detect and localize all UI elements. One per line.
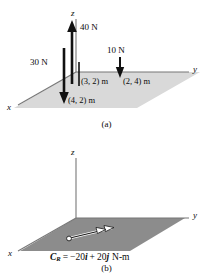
couple-units: N-m [112, 252, 129, 262]
panel-a-force-label-40N: 40 N [80, 23, 98, 32]
couple-unit-vector-i: i [85, 252, 88, 262]
couple-term-j: 20 [97, 252, 107, 262]
panel-b-x-axis-label: x [8, 249, 12, 258]
couple-equals: = [63, 252, 68, 262]
couple-term-i: −20 [70, 252, 85, 262]
couple-unit-vector-j: j [106, 252, 109, 262]
panel-a-x-axis-label: x [7, 103, 11, 112]
figure-root: z y x 40 N 30 N 10 N (3, 2) m (4, 2) m (… [0, 0, 213, 275]
panel-a-caption: (a) [0, 120, 213, 129]
panel-a-z-axis-label: z [71, 9, 75, 18]
figure-panel-b: z y x CR=−20i+20jN-m (b) [0, 138, 213, 275]
panel-a-coord-label-3-2: (3, 2) m [81, 77, 108, 86]
panel-b-y-axis-label: y [193, 211, 197, 220]
panel-b-caption: (b) [0, 264, 213, 273]
panel-a-graphics [0, 0, 213, 138]
figure-panel-a: z y x 40 N 30 N 10 N (3, 2) m (4, 2) m (… [0, 0, 213, 138]
panel-a-coord-label-2-4: (2, 4) m [123, 77, 150, 86]
couple-moment-formula: CR=−20i+20jN-m [50, 253, 129, 263]
panel-a-force-label-10N: 10 N [107, 46, 125, 55]
panel-a-force-label-30N: 30 N [30, 58, 48, 67]
xy-plane-bottom [20, 218, 185, 251]
panel-b-z-axis-label: z [71, 148, 75, 157]
panel-a-y-axis-label: y [193, 65, 197, 74]
couple-plus: + [90, 252, 95, 262]
panel-a-coord-label-4-2: (4, 2) m [68, 96, 95, 105]
couple-subscript: R [56, 255, 60, 262]
